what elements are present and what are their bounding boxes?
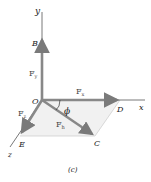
vector-fz-label: Fz (18, 109, 27, 119)
x-axis-label: x (139, 103, 144, 112)
angle-phi-label: ϕ (64, 106, 70, 116)
force-component-diagram: y x z B O D C E Fy Fx Fz Fh ϕ (c) (0, 0, 151, 182)
point-o-label: O (32, 97, 39, 106)
point-c-label: C (94, 139, 100, 148)
vector-fy-label: Fy (29, 69, 38, 80)
vector-fx-label: Fx (76, 87, 85, 97)
y-axis-label: y (34, 6, 41, 16)
point-e-label: E (18, 140, 25, 149)
z-axis-label: z (7, 151, 12, 159)
point-d-label: D (116, 105, 124, 114)
point-b-label: B (31, 39, 38, 48)
figure-caption: (c) (68, 166, 78, 174)
